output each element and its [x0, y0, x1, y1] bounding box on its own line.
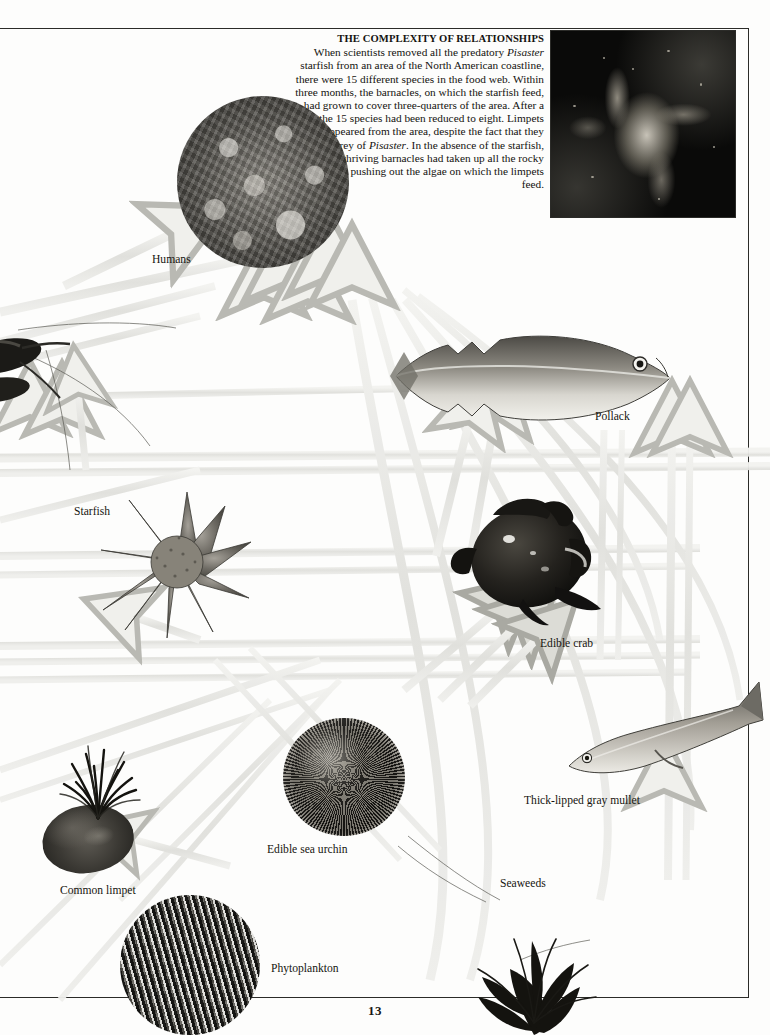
article-heading: THE COMPLEXITY OF RELATIONSHIPS	[288, 32, 544, 45]
label-starfish: Starfish	[74, 505, 110, 518]
bottom-rule	[0, 997, 749, 998]
phytoplankton-photo	[120, 895, 260, 1035]
right-rule	[748, 28, 749, 998]
edible-crab-photo	[437, 487, 627, 627]
label-edible-crab: Edible crab	[540, 637, 593, 650]
page-number: 13	[320, 1003, 430, 1019]
label-common-limpet: Common limpet	[60, 884, 136, 897]
label-thick-lipped-gray-mullet: Thick-lipped gray mullet	[524, 794, 640, 807]
label-humans: Humans	[152, 253, 191, 266]
gray-mullet-photo	[563, 676, 768, 786]
seaweeds-photo	[470, 895, 600, 1035]
lobster-photo	[0, 318, 82, 414]
pollack-fish-photo	[388, 330, 673, 426]
label-seaweeds: Seaweeds	[500, 877, 546, 890]
page-canvas: THE COMPLEXITY OF RELATIONSHIPS When sci…	[0, 0, 770, 1035]
starfish-photo	[95, 480, 260, 645]
label-edible-sea-urchin: Edible sea urchin	[267, 843, 347, 856]
sea-urchin-photo	[283, 718, 405, 836]
label-pollack: Pollack	[595, 410, 630, 423]
pisaster-starfish-inset-photo	[551, 31, 735, 217]
label-phytoplankton: Phytoplankton	[271, 962, 339, 975]
limpet-algae-tuft	[52, 742, 144, 820]
humans-crowd-photo	[177, 96, 349, 268]
top-rule	[0, 28, 748, 29]
